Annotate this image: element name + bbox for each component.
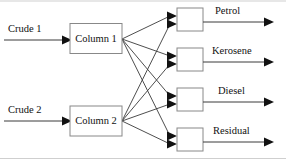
process-label-column-1: Column 1 <box>75 33 117 44</box>
product-label-petrol: Petrol <box>215 5 240 16</box>
petrol-arrowhead-icon <box>264 18 274 27</box>
product-3-arrowhead-from-column-1-icon <box>167 92 177 101</box>
process-label-column-2: Column 2 <box>75 115 117 126</box>
crude-1-label: Crude 1 <box>8 23 42 34</box>
product-1-arrowhead-from-column-1-icon <box>167 12 177 21</box>
diagram-canvas: Crude 1 Crude 2 Column 1 Column 2 <box>0 0 286 164</box>
product-4-arrowhead-from-column-2-icon <box>167 140 177 149</box>
product-3-arrowhead-from-column-2-icon <box>167 100 177 109</box>
product-2-arrowhead-from-column-1-icon <box>167 52 177 61</box>
crude-2-label: Crude 2 <box>8 104 42 115</box>
link-column-2-to-product-4 <box>122 121 170 144</box>
link-column-1-to-product-1 <box>122 16 170 39</box>
product-box-petrol[interactable] <box>177 8 203 31</box>
product-label-diesel: Diesel <box>218 85 245 96</box>
product-1-arrowhead-from-column-2-icon <box>167 20 177 29</box>
product-box-diesel[interactable] <box>177 88 203 111</box>
product-label-residual: Residual <box>213 125 250 136</box>
product-2-arrowhead-from-column-2-icon <box>167 60 177 69</box>
product-box-residual[interactable] <box>177 128 203 151</box>
diesel-arrowhead-icon <box>264 98 274 107</box>
product-4-arrowhead-from-column-1-icon <box>167 132 177 141</box>
residual-arrowhead-icon <box>264 138 274 147</box>
product-box-kerosene[interactable] <box>177 48 203 71</box>
kerosene-arrowhead-icon <box>264 58 274 67</box>
process-flow-diagram: Crude 1 Crude 2 Column 1 Column 2 <box>0 0 286 164</box>
product-label-kerosene: Kerosene <box>212 45 252 56</box>
